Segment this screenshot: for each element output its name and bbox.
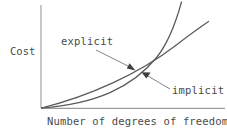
implicit-leader-line	[147, 76, 170, 90]
explicit-leader-line	[96, 50, 131, 68]
explicit-arrowhead-icon	[127, 63, 136, 70]
explicit-series-label: explicit	[61, 36, 113, 47]
plot-canvas	[0, 0, 227, 132]
implicit-series-label: implicit	[172, 85, 224, 96]
y-axis-label: Cost	[10, 46, 35, 57]
implicit-arrowhead-icon	[142, 72, 151, 78]
x-axis-label: Number of degrees of freedom	[47, 116, 227, 127]
implicit-curve	[42, 2, 182, 108]
cost-vs-dof-figure: Cost Number of degrees of freedom explic…	[0, 0, 227, 132]
